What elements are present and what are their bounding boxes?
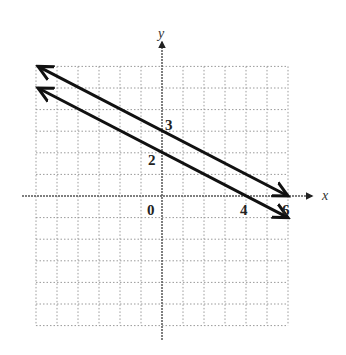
lines [38,66,288,217]
axes [22,42,312,340]
x-intercept-4-label: 4 [240,202,248,218]
coordinate-plane: y x 3 2 0 4 6 [0,0,346,355]
labels: y x 3 2 0 4 6 [147,26,329,218]
y-intercept-2-label: 2 [148,152,156,168]
origin-label: 0 [147,202,155,218]
y-axis-label: y [156,26,165,41]
y-intercept-3-label: 3 [165,117,173,133]
x-intercept-6-label: 6 [282,202,290,218]
x-axis-label: x [321,188,329,203]
